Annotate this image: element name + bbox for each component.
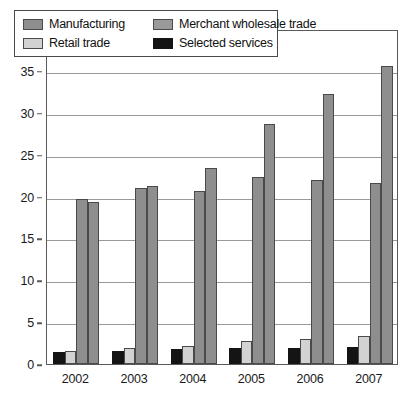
legend-item-label: Manufacturing [49,17,125,31]
legend-item: Selected services [153,36,316,50]
chart-legend: ManufacturingMerchant wholesale tradeRet… [14,10,278,57]
bar-chart: 0510152025303540 20022003200420052006200… [0,0,412,414]
y-axis-tick-label: 5 [27,316,34,330]
bar [182,346,194,364]
x-axis-tick-label: 2006 [296,372,323,386]
bar [88,202,100,364]
y-axis-tick-mark [37,322,42,324]
bar [229,348,241,364]
bar [323,94,335,364]
bar [300,339,312,364]
y-axis-tick-mark [37,364,42,366]
y-axis-tick-label: 20 [20,191,34,205]
bar [288,348,300,364]
bar [65,351,77,364]
legend-item: Retail trade [23,36,151,50]
bar [76,199,88,364]
legend-swatch-icon [23,19,43,30]
y-axis-tick-mark [37,239,42,241]
y-axis-tick-label: 15 [20,232,34,246]
x-axis-tick-label: 2005 [238,372,265,386]
bar [147,186,159,364]
x-axis: 200220032004200520062007 [46,366,398,400]
bar [53,352,65,364]
bar [347,347,359,364]
legend-swatch-icon [153,19,173,30]
bar [264,124,276,364]
x-axis-tick-label: 2002 [62,372,89,386]
bar [194,191,206,364]
bars-layer [47,31,397,364]
y-axis-tick-mark [37,71,42,73]
bar [135,188,147,364]
legend-item-label: Retail trade [49,36,110,50]
y-axis-tick-label: 0 [27,358,34,372]
bar [124,348,136,364]
bar [205,168,217,364]
legend-item-label: Selected services [179,36,273,50]
bar [252,177,264,364]
y-axis-tick-label: 30 [20,107,34,121]
y-axis-tick-label: 25 [20,149,34,163]
y-axis-tick-mark [37,281,42,283]
y-axis: 0510152025303540 [0,30,42,365]
legend-item: Manufacturing [23,17,151,31]
bar [358,336,370,364]
legend-item-label: Merchant wholesale trade [179,17,316,31]
bar [112,351,124,364]
plot-area [46,30,398,365]
bar [241,341,253,364]
x-axis-tick-label: 2004 [179,372,206,386]
legend-swatch-icon [153,38,173,49]
bar [381,66,393,364]
y-axis-tick-label: 35 [20,65,34,79]
y-axis-tick-mark [37,113,42,115]
y-axis-tick-label: 10 [20,274,34,288]
legend-item: Merchant wholesale trade [153,17,316,31]
x-axis-tick-label: 2003 [120,372,147,386]
bar [171,349,183,364]
y-axis-tick-mark [37,155,42,157]
x-axis-tick-label: 2007 [355,372,382,386]
bar [311,180,323,364]
y-axis-tick-mark [37,197,42,199]
bar [370,183,382,364]
legend-grid: ManufacturingMerchant wholesale tradeRet… [23,17,269,50]
legend-swatch-icon [23,38,43,49]
